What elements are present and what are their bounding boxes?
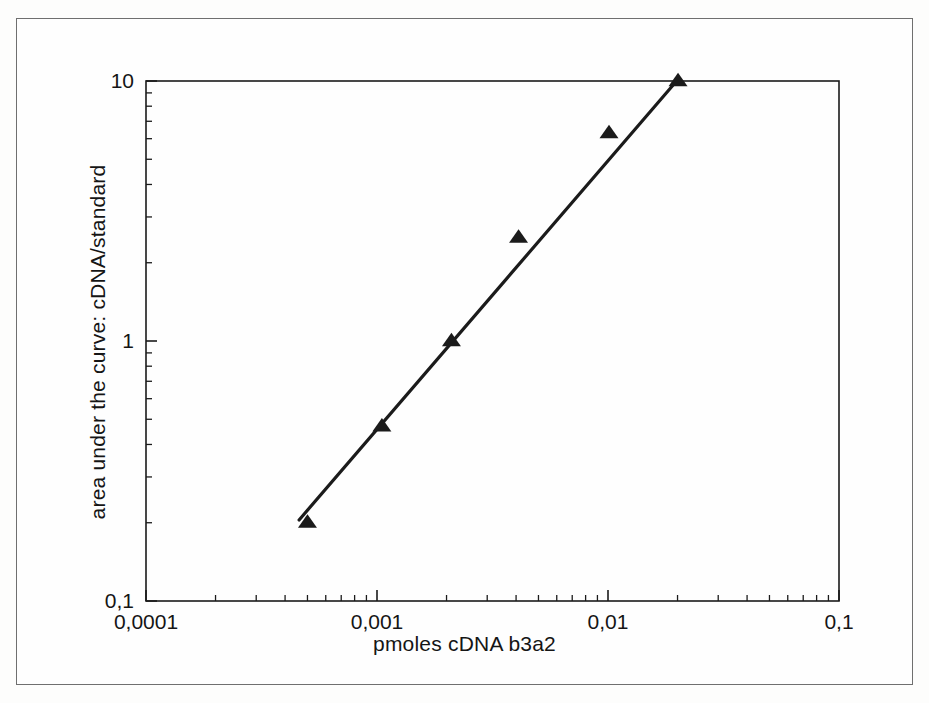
x-axis-title: pmoles cDNA b3a2 [0, 632, 929, 656]
standard-curve-figure: 0,00010,0010,010,1 0,1110 pmoles cDNA b3… [0, 0, 929, 703]
regression-line [299, 79, 678, 520]
minor-tick-marks [146, 93, 828, 601]
y-axis-title: area under the curve: cDNA/standard [86, 22, 110, 662]
major-tick-marks [146, 81, 839, 601]
axes-group [146, 81, 839, 601]
chart-plot-area [0, 0, 929, 703]
x-tick-label: 0,01 [588, 610, 629, 634]
figure-page: 0,00010,0010,010,1 0,1110 pmoles cDNA b3… [0, 0, 929, 703]
x-tick-label: 0,0001 [114, 610, 178, 634]
x-tick-label: 0,1 [824, 610, 853, 634]
x-tick-label: 0,001 [351, 610, 404, 634]
data-point-markers [298, 73, 688, 528]
